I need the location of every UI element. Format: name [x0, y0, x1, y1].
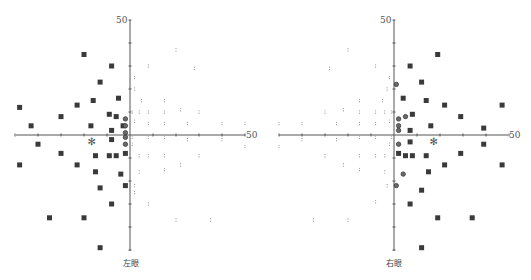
defect-square-marker: [481, 126, 486, 131]
normal-dot-marker: [375, 110, 376, 114]
normal-dot-marker: [301, 122, 302, 126]
right-eye-label: 右眼: [386, 258, 402, 268]
normal-dot-marker: [347, 48, 348, 52]
defect-square-marker: [424, 98, 429, 103]
relative-defect-circle-marker: [123, 117, 127, 121]
normal-dot-marker: [210, 218, 211, 222]
relative-defect-circle-marker: [396, 117, 400, 121]
normal-dot-marker: [336, 122, 337, 126]
relative-defect-circle-marker: [394, 82, 398, 86]
defect-square-marker: [419, 245, 424, 250]
normal-dot-marker: [148, 64, 149, 68]
blind-spot-asterisk-icon: ✻: [430, 136, 438, 147]
normal-dot-marker: [278, 122, 279, 126]
normal-dot-marker: [359, 99, 360, 103]
normal-dot-marker: [187, 122, 188, 126]
defect-square-marker: [481, 142, 486, 147]
normal-dot-marker: [359, 168, 360, 172]
defect-square-marker: [17, 105, 22, 110]
defect-square-marker: [123, 183, 128, 188]
normal-dot-marker: [134, 191, 135, 195]
normal-dot-marker: [391, 136, 392, 140]
defect-square-marker: [458, 114, 463, 119]
normal-dot-marker: [148, 154, 149, 158]
normal-dot-marker: [139, 154, 140, 158]
normal-dot-marker: [244, 145, 245, 149]
defect-square-marker: [75, 162, 80, 167]
left-data-points: ✻: [17, 48, 245, 250]
normal-dot-marker: [148, 110, 149, 114]
normal-dot-marker: [324, 154, 325, 158]
relative-defect-circle-marker: [394, 183, 398, 187]
normal-dot-marker: [139, 110, 140, 114]
normal-dot-marker: [134, 87, 135, 91]
normal-dot-marker: [301, 138, 302, 142]
defect-square-marker: [426, 169, 431, 174]
defect-square-marker: [114, 114, 119, 119]
normal-dot-marker: [343, 163, 344, 167]
defect-square-marker: [118, 172, 123, 177]
defect-square-marker: [435, 215, 440, 220]
normal-dot-marker: [389, 76, 390, 80]
normal-dot-marker: [359, 136, 360, 140]
normal-dot-marker: [313, 218, 314, 222]
normal-dot-marker: [134, 119, 135, 123]
normal-dot-marker: [278, 145, 279, 149]
defect-square-marker: [419, 80, 424, 85]
normal-dot-marker: [148, 136, 149, 140]
defect-square-marker: [107, 153, 112, 158]
normal-dot-marker: [391, 110, 392, 114]
relative-defect-circle-marker: [123, 142, 127, 146]
normal-dot-marker: [164, 168, 165, 172]
relative-defect-circle-marker: [123, 135, 127, 139]
defect-square-marker: [401, 96, 406, 101]
blind-spot-asterisk-icon: ✻: [87, 136, 95, 147]
relative-defect-circle-marker: [396, 124, 400, 128]
defect-square-marker: [408, 64, 413, 69]
defect-square-marker: [93, 153, 98, 158]
defect-square-marker: [109, 202, 114, 207]
defect-square-marker: [107, 112, 112, 117]
defect-square-marker: [470, 215, 475, 220]
defect-square-marker: [442, 162, 447, 167]
relative-defect-circle-marker: [401, 172, 405, 176]
defect-square-marker: [59, 114, 64, 119]
defect-square-marker: [424, 153, 429, 158]
normal-dot-marker: [347, 218, 348, 222]
normal-dot-marker: [164, 136, 165, 140]
normal-dot-marker: [180, 163, 181, 167]
defect-square-marker: [109, 137, 114, 142]
normal-dot-marker: [389, 142, 390, 146]
normal-dot-marker: [132, 136, 133, 140]
normal-dot-marker: [132, 142, 133, 146]
normal-dot-marker: [132, 110, 133, 114]
defect-square-marker: [109, 128, 114, 133]
defect-square-marker: [408, 139, 413, 144]
normal-dot-marker: [175, 218, 176, 222]
defect-square-marker: [123, 151, 128, 156]
left-top-axis-label: 50: [116, 15, 128, 25]
right-right-axis-label: 50: [509, 130, 521, 140]
defect-square-marker: [114, 153, 119, 158]
normal-dot-marker: [187, 138, 188, 142]
normal-dot-marker: [359, 110, 360, 114]
defect-square-marker: [419, 188, 424, 193]
left-eye-chart: 50 50 左眼 ✻: [15, 15, 258, 268]
right-top-axis-label: 50: [380, 15, 392, 25]
right-data-points: ✻: [278, 48, 504, 250]
normal-dot-marker: [336, 138, 337, 142]
relative-defect-circle-marker: [396, 128, 400, 132]
defect-square-marker: [109, 64, 114, 69]
normal-dot-marker: [244, 122, 245, 126]
normal-dot-marker: [359, 154, 360, 158]
normal-dot-marker: [375, 154, 376, 158]
normal-dot-marker: [194, 67, 195, 71]
normal-dot-marker: [324, 110, 325, 114]
defect-square-marker: [82, 215, 87, 220]
defect-square-marker: [410, 112, 415, 117]
defect-square-marker: [435, 52, 440, 57]
defect-square-marker: [91, 98, 96, 103]
normal-dot-marker: [384, 170, 385, 174]
normal-dot-marker: [389, 119, 390, 123]
defect-square-marker: [82, 52, 87, 57]
